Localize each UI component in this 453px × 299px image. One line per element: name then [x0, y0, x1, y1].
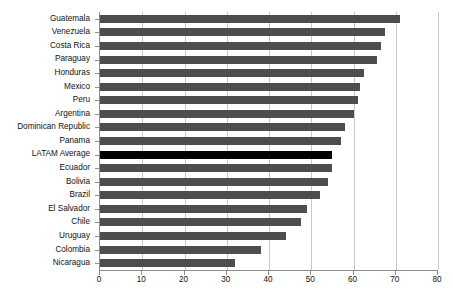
- bar-series: [100, 12, 438, 270]
- bar: [100, 191, 320, 199]
- category-axis-labels: GuatemalaVenezuelaCosta RicaParaguayHond…: [0, 12, 95, 270]
- value-tick-label: 50: [306, 276, 315, 284]
- bar: [100, 123, 345, 131]
- bar-row: [100, 80, 438, 94]
- bar-row: [100, 189, 438, 203]
- category-label: Panama: [0, 134, 95, 148]
- category-label: Peru: [0, 93, 95, 107]
- bar: [100, 232, 286, 240]
- value-tick-label: 70: [390, 276, 399, 284]
- value-tick-label: 60: [348, 276, 357, 284]
- bar: [100, 218, 301, 226]
- bar: [100, 205, 307, 213]
- bar-row: [100, 53, 438, 67]
- category-label: Guatemala: [0, 12, 95, 26]
- bar-row: [100, 175, 438, 189]
- bar: [100, 151, 332, 159]
- bar: [100, 42, 381, 50]
- bar-row: [100, 148, 438, 162]
- category-label: Colombia: [0, 243, 95, 257]
- bar-row: [100, 39, 438, 53]
- value-tick-label: 80: [432, 276, 441, 284]
- category-label: Dominican Republic: [0, 121, 95, 135]
- bar-row: [100, 216, 438, 230]
- category-label: El Salvador: [0, 202, 95, 216]
- category-label: Bolivia: [0, 175, 95, 189]
- value-tick-label: 40: [263, 276, 272, 284]
- bar-row: [100, 202, 438, 216]
- category-label: Mexico: [0, 80, 95, 94]
- bar-row: [100, 161, 438, 175]
- bar: [100, 259, 235, 267]
- bar: [100, 56, 377, 64]
- bar: [100, 246, 261, 254]
- category-label: Costa Rica: [0, 39, 95, 53]
- value-axis-labels: 01020304050607080: [99, 276, 437, 290]
- bar-row: [100, 256, 438, 270]
- bar: [100, 110, 354, 118]
- bar-row: [100, 26, 438, 40]
- value-tick-label: 20: [179, 276, 188, 284]
- category-label: Venezuela: [0, 26, 95, 40]
- bar-chart: GuatemalaVenezuelaCosta RicaParaguayHond…: [0, 0, 453, 299]
- gridline: [438, 12, 439, 270]
- bar: [100, 96, 358, 104]
- bar-row: [100, 12, 438, 26]
- bar: [100, 83, 360, 91]
- category-label: Brazil: [0, 189, 95, 203]
- value-tick-label: 30: [221, 276, 230, 284]
- category-label: Honduras: [0, 66, 95, 80]
- plot-area: [99, 12, 438, 270]
- bar-row: [100, 66, 438, 80]
- bar: [100, 164, 332, 172]
- bar-row: [100, 107, 438, 121]
- bar-row: [100, 243, 438, 257]
- bar-row: [100, 93, 438, 107]
- category-label: Paraguay: [0, 53, 95, 67]
- category-label: Ecuador: [0, 161, 95, 175]
- bar: [100, 178, 328, 186]
- bar-row: [100, 121, 438, 135]
- bar: [100, 69, 364, 77]
- category-label: Uruguay: [0, 229, 95, 243]
- bar: [100, 137, 341, 145]
- category-label: Nicaragua: [0, 256, 95, 270]
- value-tick-label: 10: [137, 276, 146, 284]
- category-label: LATAM Average: [0, 148, 95, 162]
- bar-row: [100, 134, 438, 148]
- category-label: Chile: [0, 216, 95, 230]
- bar-row: [100, 229, 438, 243]
- category-label: Argentina: [0, 107, 95, 121]
- value-tick-label: 0: [97, 276, 102, 284]
- bar: [100, 28, 385, 36]
- bar: [100, 15, 400, 23]
